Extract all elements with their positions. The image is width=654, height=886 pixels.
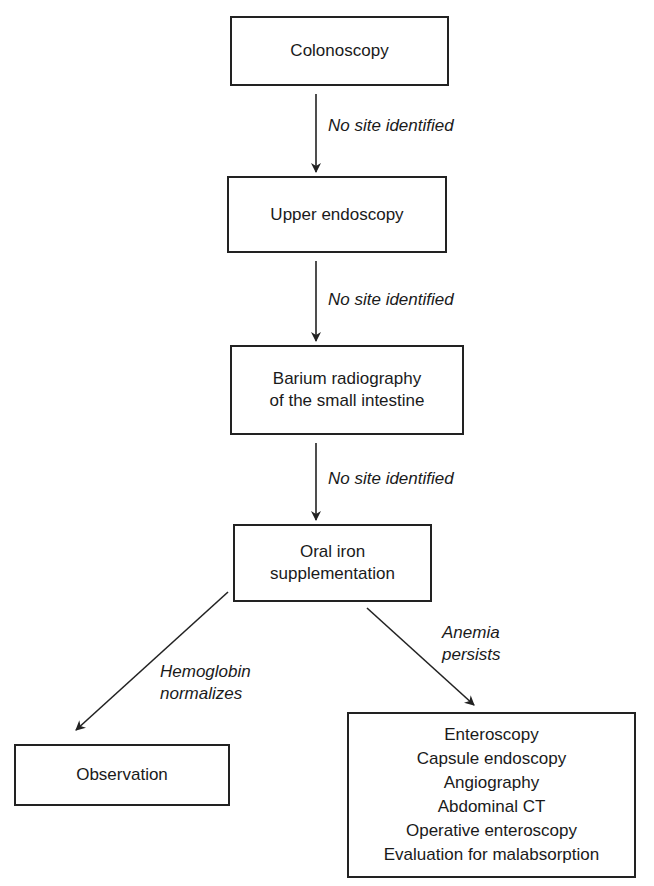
workup-item: Angiography	[444, 771, 539, 795]
node-further-workup: Enteroscopy Capsule endoscopy Angiograph…	[347, 712, 636, 878]
node-colonoscopy: Colonoscopy	[230, 16, 449, 86]
workup-item: Evaluation for malabsorption	[384, 843, 599, 867]
node-oral-iron: Oral iron supplementation	[233, 524, 432, 602]
edge-label-no-site-3: No site identified	[328, 468, 454, 490]
edge-label-hemoglobin-normalizes: Hemoglobin normalizes	[160, 661, 251, 705]
node-text: Observation	[76, 764, 168, 786]
workup-item: Abdominal CT	[438, 795, 546, 819]
node-observation: Observation	[14, 744, 230, 806]
workup-item: Capsule endoscopy	[417, 747, 566, 771]
node-text-line-2: of the small intestine	[270, 390, 425, 412]
node-text-line-1: Oral iron	[300, 541, 365, 563]
edge-label-no-site-2: No site identified	[328, 289, 454, 311]
node-text-line-1: Barium radiography	[273, 368, 421, 390]
node-barium-radiography: Barium radiography of the small intestin…	[230, 345, 464, 435]
workup-item: Enteroscopy	[444, 723, 539, 747]
node-text: Upper endoscopy	[270, 204, 403, 226]
node-text-line-2: supplementation	[270, 563, 395, 585]
workup-item: Operative enteroscopy	[406, 819, 577, 843]
node-text: Colonoscopy	[290, 40, 388, 62]
edge-label-no-site-1: No site identified	[328, 115, 454, 137]
edge-label-anemia-persists: Anemia persists	[442, 622, 501, 666]
node-upper-endoscopy: Upper endoscopy	[227, 176, 447, 253]
